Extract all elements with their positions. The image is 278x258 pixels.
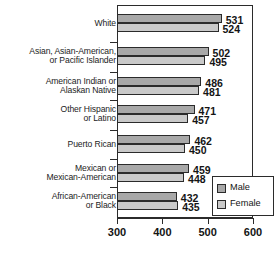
x-axis-tick: [117, 218, 118, 224]
value-label-female: 448: [188, 174, 206, 185]
category-axis-tick: [110, 100, 118, 101]
bar-female: [117, 86, 199, 95]
male-swatch-icon: [217, 184, 226, 193]
category-label-line: or Latino: [61, 114, 116, 124]
legend-label-male: Male: [230, 183, 250, 192]
category-label-line: Alaskan Native: [46, 86, 116, 96]
category-axis-tick: [110, 187, 118, 188]
category-label-line: Mexican-American: [46, 173, 116, 183]
category-label: Asian, Asian-American,or Pacific Islande…: [29, 47, 116, 66]
category-label: Mexican orMexican-American: [46, 164, 116, 183]
category-axis-tick: [110, 72, 118, 73]
value-label-female: 481: [203, 87, 221, 98]
chart-legend: Male Female: [212, 176, 274, 216]
bar-male: [117, 135, 190, 144]
category-axis-tick: [110, 42, 118, 43]
category-label: Other Hispanicor Latino: [61, 105, 116, 124]
bar-female: [117, 173, 184, 182]
legend-entry-male: Male: [217, 180, 273, 196]
x-axis-tick: [208, 218, 209, 224]
bar-female: [117, 114, 188, 123]
bar-female: [117, 201, 178, 210]
category-label-line: White: [95, 19, 116, 29]
category-label-line: or Black: [52, 201, 116, 211]
bar-male: [117, 105, 195, 114]
x-axis-tick-label: 600: [244, 227, 262, 238]
category-label-line: Puerto Rican: [68, 140, 116, 150]
bar-male: [117, 164, 189, 173]
category-label: White: [95, 19, 116, 29]
value-label-female: 524: [223, 24, 241, 35]
category-label-line: or Pacific Islander: [29, 56, 116, 66]
x-axis-tick-label: 300: [108, 227, 126, 238]
legend-entry-female: Female: [217, 196, 273, 212]
chart-rows: White531524Asian, Asian-American,or Paci…: [0, 0, 278, 258]
category-label: African-Americanor Black: [52, 192, 116, 211]
bar-female: [117, 144, 185, 153]
bar-male: [117, 14, 222, 23]
value-label-female: 457: [192, 115, 210, 126]
bar-female: [117, 23, 219, 32]
category-label: American Indian orAlaskan Native: [46, 77, 116, 96]
x-axis-tick-label: 500: [198, 227, 216, 238]
value-label-female: 495: [209, 57, 227, 68]
x-axis-line: [117, 218, 254, 219]
bar-female: [117, 56, 205, 65]
category-axis-tick: [110, 159, 118, 160]
x-axis-tick-label: 400: [153, 227, 171, 238]
value-label-female: 450: [189, 145, 207, 156]
category-label: Puerto Rican: [68, 140, 116, 150]
category-axis-tick: [110, 130, 118, 131]
x-axis-tick: [253, 218, 254, 224]
legend-label-female: Female: [230, 199, 261, 208]
x-axis-tick: [162, 218, 163, 224]
grouped-bar-chart: White531524Asian, Asian-American,or Paci…: [0, 0, 278, 258]
value-label-female: 435: [182, 202, 200, 213]
bar-male: [117, 77, 201, 86]
bar-male: [117, 192, 177, 201]
bar-male: [117, 47, 209, 56]
female-swatch-icon: [217, 200, 226, 209]
